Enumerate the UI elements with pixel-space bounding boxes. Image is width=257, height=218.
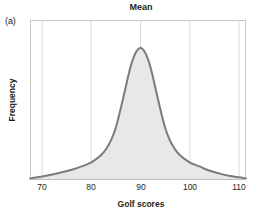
x-axis-label: Golf scores (118, 199, 165, 209)
x-tick-label-80: 80 (86, 182, 95, 192)
y-axis-label: Frequency (7, 79, 17, 122)
x-tick-label-90: 90 (136, 182, 145, 192)
figure-panel-a: (a) Mean Frequency 70 80 90 100 110 Go (0, 0, 257, 218)
plot-area (30, 20, 246, 180)
x-tick-label-100: 100 (183, 182, 197, 192)
panel-letter: (a) (5, 16, 16, 26)
x-tick-label-110: 110 (232, 182, 246, 192)
x-tick-label-70: 70 (37, 182, 46, 192)
density-curve-svg (30, 20, 246, 180)
chart-title: Mean (129, 2, 152, 12)
